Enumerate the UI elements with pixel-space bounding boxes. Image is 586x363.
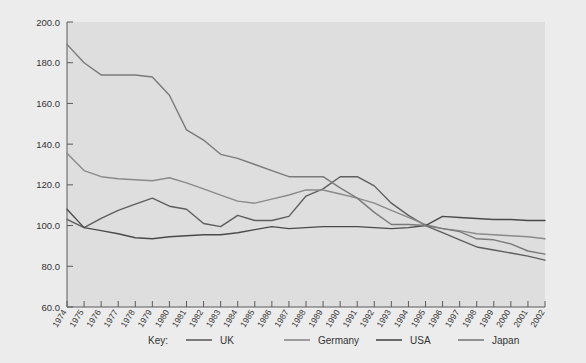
y-axis-tick-label: 120.0 — [36, 179, 60, 190]
y-axis-tick-label: 200.0 — [36, 17, 60, 28]
plot-area-background — [67, 22, 545, 307]
chart-container: 200.0180.0160.0140.0120.0100.080.060.0 1… — [0, 0, 586, 363]
y-axis-tick-label: 180.0 — [36, 57, 60, 68]
y-axis-tick-label: 160.0 — [36, 98, 60, 109]
legend-label-usa: USA — [410, 335, 431, 346]
y-axis-tick-label: 140.0 — [36, 139, 60, 150]
legend-key-label: Key: — [148, 335, 168, 346]
legend-label-japan: Japan — [492, 335, 519, 346]
y-axis-tick-label: 100.0 — [36, 220, 60, 231]
line-chart-figure: 200.0180.0160.0140.0120.0100.080.060.0 1… — [0, 0, 586, 363]
y-axis-tick-label: 80.0 — [42, 261, 61, 272]
legend-label-germany: Germany — [318, 335, 359, 346]
legend-label-uk: UK — [220, 335, 234, 346]
